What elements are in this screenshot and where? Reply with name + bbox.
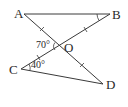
- label-D: D: [106, 77, 115, 92]
- geometry-diagram: A B C D O 70° 40°: [0, 0, 128, 107]
- segment-CD: [21, 69, 103, 84]
- angle-label-AOC: 70°: [36, 39, 50, 50]
- arc-angle-ABO: [97, 14, 99, 21]
- angle-label-OCD: 40°: [31, 59, 45, 70]
- label-B: B: [112, 7, 121, 22]
- arc-angle-AOC: [54, 43, 55, 51]
- label-C: C: [9, 62, 18, 77]
- label-A: A: [14, 6, 24, 21]
- label-O: O: [64, 40, 73, 55]
